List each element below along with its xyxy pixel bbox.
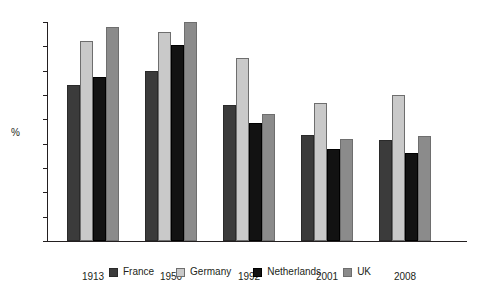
bar-uk-2001 <box>340 139 353 241</box>
legend-swatch-netherlands <box>253 268 262 277</box>
legend-item-france[interactable]: France <box>109 267 154 277</box>
bar-netherlands-1913 <box>93 77 106 241</box>
bar-france-2001 <box>301 135 314 241</box>
bar-germany-2001 <box>314 103 327 241</box>
y-axis-line <box>47 22 48 242</box>
y-tick-mark <box>43 71 47 72</box>
legend-label-uk: UK <box>357 267 371 277</box>
bar-uk-1950 <box>184 22 197 241</box>
bar-france-2008 <box>379 140 392 241</box>
y-tick-mark <box>43 95 47 96</box>
bar-france-1950 <box>145 71 158 241</box>
legend-swatch-germany <box>176 268 185 277</box>
legend-label-netherlands: Netherlands <box>267 267 321 277</box>
y-tick-mark <box>43 241 47 242</box>
bar-germany-2008 <box>392 95 405 241</box>
y-tick-mark <box>43 119 47 120</box>
y-tick-mark <box>43 22 47 23</box>
bar-uk-1913 <box>106 27 119 241</box>
y-tick-mark <box>43 192 47 193</box>
bar-uk-2008 <box>418 136 431 241</box>
bar-netherlands-2001 <box>327 149 340 241</box>
bar-netherlands-2008 <box>405 153 418 241</box>
legend-item-uk[interactable]: UK <box>343 267 371 277</box>
bar-netherlands-1950 <box>171 45 184 241</box>
bar-netherlands-1992 <box>249 123 262 241</box>
legend-label-germany: Germany <box>190 267 231 277</box>
y-tick-mark <box>43 168 47 169</box>
plot-area: 051015202530354045 19131950199220012008 <box>47 22 467 242</box>
legend-item-netherlands[interactable]: Netherlands <box>253 267 321 277</box>
y-tick-mark <box>43 46 47 47</box>
bar-group <box>145 22 197 241</box>
bar-group <box>301 22 353 241</box>
chart-legend: FranceGermanyNetherlandsUK <box>0 267 480 277</box>
y-tick-mark <box>43 217 47 218</box>
bar-chart: % 051015202530354045 1913195019922001200… <box>0 0 480 295</box>
bar-germany-1992 <box>236 58 249 241</box>
x-axis-line <box>47 241 467 242</box>
legend-swatch-uk <box>343 268 352 277</box>
bar-france-1913 <box>67 85 80 241</box>
bar-uk-1992 <box>262 114 275 241</box>
bar-group <box>379 22 431 241</box>
bar-group <box>223 22 275 241</box>
bar-germany-1913 <box>80 41 93 241</box>
y-tick-mark <box>43 144 47 145</box>
legend-label-france: France <box>123 267 154 277</box>
bar-germany-1950 <box>158 32 171 241</box>
y-axis-title: % <box>11 128 20 138</box>
legend-swatch-france <box>109 268 118 277</box>
legend-item-germany[interactable]: Germany <box>176 267 231 277</box>
bar-france-1992 <box>223 105 236 241</box>
bar-group <box>67 22 119 241</box>
